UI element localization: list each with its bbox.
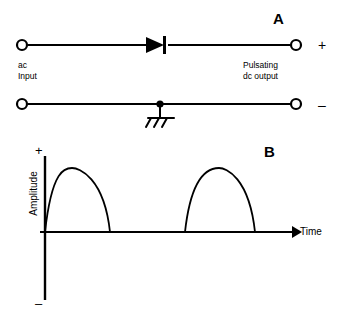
dc-output-label: Pulsating dc output [243,60,278,82]
waveform-pulse-2 [185,168,255,232]
y-axis-negative-sign: – [35,297,42,310]
negative-terminal-sign: – [318,98,326,112]
rectifier-figure: A B ac Input Pulsating dc output + – + –… [0,0,342,323]
x-axis-label: Time [300,226,322,237]
ac-input-label: ac Input [18,60,37,82]
positive-terminal-sign: + [318,38,326,52]
input-bottom-terminal-icon [17,99,27,109]
y-axis-label: Amplitude [28,159,39,229]
figure-canvas [0,0,342,323]
input-top-terminal-icon [17,40,27,50]
diode-anode-triangle [146,37,164,53]
waveform-plot [40,156,302,300]
output-top-terminal-icon [291,40,301,50]
y-axis-positive-sign: + [35,144,43,157]
panel-label-b: B [264,143,275,160]
ground-icon [146,104,174,127]
waveform-pulse-1 [45,168,110,232]
panel-label-a: A [273,10,284,27]
output-bottom-terminal-icon [291,99,301,109]
diode-icon [146,36,165,54]
